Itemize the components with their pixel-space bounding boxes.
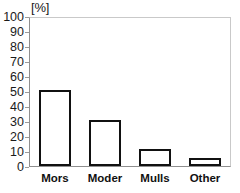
x-tick-label: Mulls [140,172,169,185]
y-axis-tick-labels: 0102030405060708090100 [0,17,27,167]
x-tick-label: Moder [88,172,123,185]
y-tick-label: 30 [10,116,24,128]
y-axis-unit-label: [%] [31,1,49,15]
x-axis-tick-labels: MorsModerMullsOther [30,172,230,190]
y-tick-label: 10 [10,146,24,158]
bars-layer [30,17,230,166]
x-tick-label: Mors [41,172,68,185]
y-tick-label: 80 [10,41,24,53]
y-tick-label: 0 [17,161,24,173]
y-tick-mark [25,167,29,168]
bar [189,158,221,166]
bar [89,120,121,166]
bar-slot [180,17,230,166]
y-tick-label: 50 [10,86,24,98]
y-tick-label: 100 [3,11,24,23]
bar-slot [30,17,80,166]
x-tick-label: Other [190,172,221,185]
bar [139,149,171,166]
y-tick-label: 20 [10,131,24,143]
bar-chart: [%] 0102030405060708090100 MorsModerMull… [0,0,240,193]
y-tick-label: 90 [10,26,24,38]
y-tick-label: 60 [10,71,24,83]
y-tick-label: 40 [10,101,24,113]
y-tick-label: 70 [10,56,24,68]
bar-slot [130,17,180,166]
bar-slot [80,17,130,166]
bar [39,90,71,166]
